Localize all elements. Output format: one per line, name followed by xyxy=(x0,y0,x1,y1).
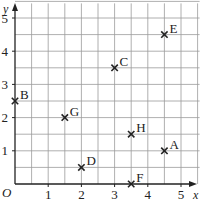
point-label: F xyxy=(136,170,143,185)
y-tick-label: 4 xyxy=(2,44,9,59)
y-tick-label: 5 xyxy=(2,11,9,26)
point-c: C xyxy=(111,54,128,71)
y-axis-arrow-icon xyxy=(12,3,18,11)
point-f: F xyxy=(128,170,143,187)
origin-label: O xyxy=(2,185,12,200)
point-label: C xyxy=(120,54,129,69)
point-d: D xyxy=(78,153,96,170)
point-label: E xyxy=(169,21,177,36)
point-label: H xyxy=(136,120,145,135)
x-tick-label: 4 xyxy=(145,187,152,202)
x-axis-arrow-icon xyxy=(189,181,197,187)
point-h: H xyxy=(128,120,146,137)
x-tick-label: 5 xyxy=(178,187,185,202)
x-axis-label: x xyxy=(192,188,199,202)
x-tick-label: 1 xyxy=(45,187,52,202)
point-g: G xyxy=(62,104,80,121)
tick-labels: 1234512345 xyxy=(2,11,185,203)
y-tick-label: 2 xyxy=(2,110,9,125)
point-label: D xyxy=(86,153,95,168)
data-points: ABCDEFGH xyxy=(12,21,180,188)
x-tick-label: 2 xyxy=(78,187,85,202)
point-label: B xyxy=(20,87,29,102)
x-tick-label: 3 xyxy=(111,187,118,202)
coordinate-grid-chart: x y O 1234512345 ABCDEFGH xyxy=(0,0,201,202)
y-tick-label: 1 xyxy=(2,143,9,158)
point-e: E xyxy=(161,21,177,38)
point-a: A xyxy=(161,137,179,154)
point-label: A xyxy=(169,137,179,152)
point-label: G xyxy=(70,104,79,119)
y-tick-label: 3 xyxy=(2,77,9,92)
